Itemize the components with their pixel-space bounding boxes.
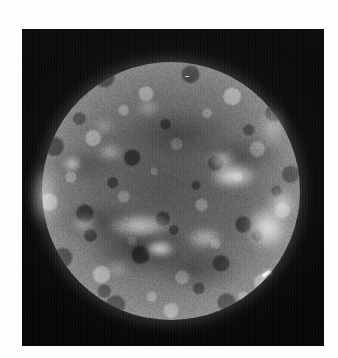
solar-photograph: [22, 29, 324, 346]
moss-network-texture: [42, 62, 300, 320]
photosphere-surface: [42, 62, 300, 320]
image-canvas: [0, 0, 338, 358]
bright-speck-artifact: [185, 76, 189, 77]
solar-disk: [42, 62, 300, 320]
